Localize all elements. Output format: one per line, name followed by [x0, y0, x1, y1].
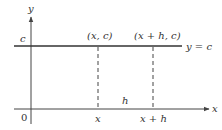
- constant-function-diagram: y x 0 c y = c (x, c) (x + h, c) x x + h …: [0, 0, 222, 130]
- interval-h-label: h: [122, 95, 128, 106]
- c-intercept-label: c: [20, 33, 26, 44]
- x-axis-label: x: [212, 103, 218, 114]
- origin-label: 0: [21, 112, 27, 123]
- y-axis-label: y: [27, 3, 34, 14]
- equation-label: y = c: [185, 41, 212, 52]
- tick-label-x-plus-h: x + h: [140, 113, 167, 124]
- point-label-x-c: (x, c): [87, 30, 112, 41]
- point-label-x-plus-h-c: (x + h, c): [134, 30, 181, 41]
- tick-label-x: x: [95, 113, 101, 124]
